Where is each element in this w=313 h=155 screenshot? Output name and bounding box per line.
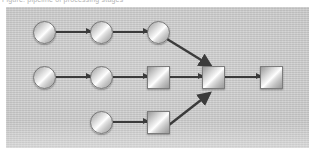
edge-m1-m2 — [56, 76, 91, 78]
caption-text: Figure: pipeline of processing stages — [2, 0, 123, 4]
caption-strip: Figure: pipeline of processing stages — [0, 0, 313, 6]
screenshot-root: Figure: pipeline of processing stages — [0, 0, 313, 155]
node-b2-square[interactable] — [147, 111, 170, 134]
edge-b1-b2 — [113, 121, 148, 123]
edge-m4-m5 — [225, 76, 261, 78]
node-t1-circle[interactable] — [33, 21, 56, 44]
node-m1-circle[interactable] — [33, 66, 56, 89]
node-m3-square[interactable] — [147, 66, 170, 89]
node-t2-circle[interactable] — [90, 21, 113, 44]
edge-b2-m4 — [169, 93, 210, 125]
node-b1-circle[interactable] — [90, 111, 113, 134]
edge-t1-t2 — [56, 31, 91, 33]
node-m2-circle[interactable] — [90, 66, 113, 89]
edge-m3-m4 — [170, 76, 203, 78]
diagram-panel — [6, 7, 309, 148]
node-m4-square-merge[interactable] — [202, 66, 225, 89]
node-m5-square-output[interactable] — [260, 66, 283, 89]
edge-t3-m4 — [167, 39, 211, 66]
edge-t2-t3 — [113, 31, 148, 33]
edge-m2-m3 — [113, 76, 148, 78]
node-t3-circle[interactable] — [147, 21, 170, 44]
